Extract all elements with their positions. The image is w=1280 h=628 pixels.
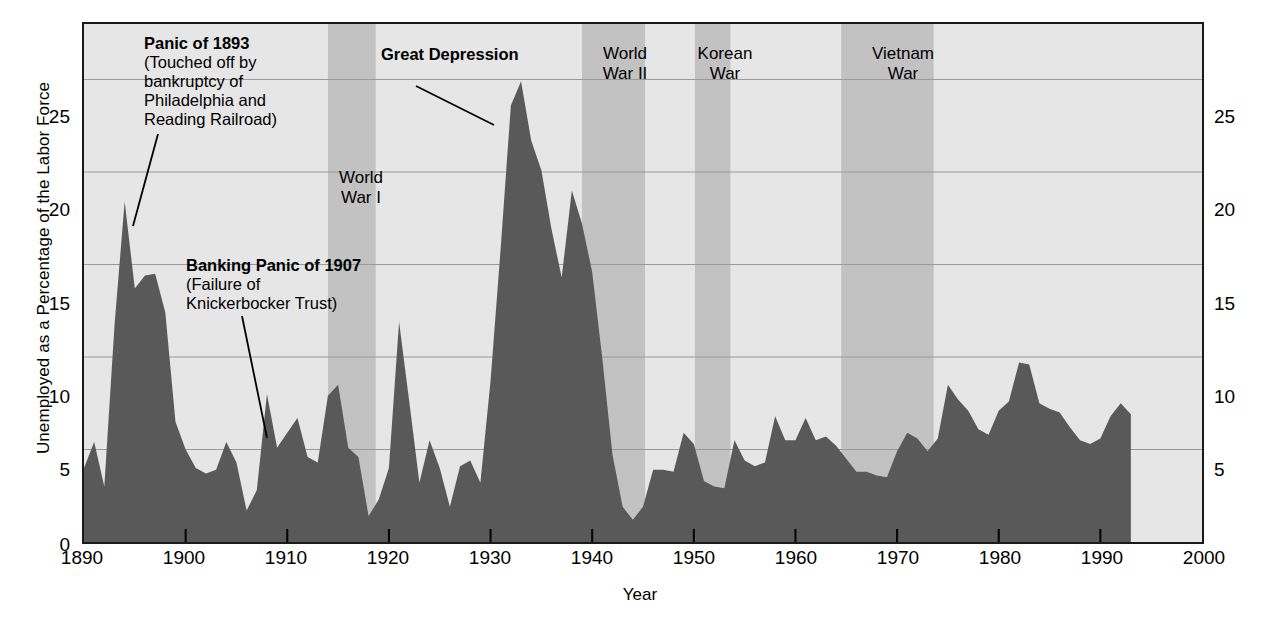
band-label-line1: World — [316, 168, 406, 188]
y-tick-left-10: 10 — [24, 387, 70, 406]
y-axis-title: Unemployed as a Percentage of the Labor … — [34, 28, 54, 508]
annotation-line-4: Reading Railroad) — [144, 110, 354, 129]
x-tick-1900: 1900 — [144, 548, 224, 567]
x-axis-title: Year — [0, 585, 1280, 605]
y-tick-left-20: 20 — [24, 200, 70, 219]
x-tick-1890: 1890 — [42, 548, 122, 567]
annotation-title: Great Depression — [381, 44, 531, 65]
x-tick-1980: 1980 — [960, 548, 1040, 567]
band-label-line2: War I — [316, 188, 406, 208]
y-tick-right-10: 10 — [1214, 387, 1260, 406]
y-tick-right-25: 25 — [1214, 107, 1260, 126]
chart-figure: Unemployed as a Percentage of the Labor … — [0, 0, 1280, 628]
x-tick-1950: 1950 — [654, 548, 734, 567]
y-tick-left-25: 25 — [24, 107, 70, 126]
annotation-line-1: (Failure of — [186, 275, 436, 294]
annotation-great-depression: Great Depression — [381, 44, 531, 65]
x-tick-1990: 1990 — [1062, 548, 1142, 567]
annotation-line-3: Philadelphia and — [144, 91, 354, 110]
x-tick-1970: 1970 — [858, 548, 938, 567]
band-label-world-war-i: World War I — [316, 168, 406, 208]
annotation-banking-panic-1907: Banking Panic of 1907 (Failure of Knicke… — [186, 256, 436, 313]
band-label-line2: War — [678, 64, 772, 84]
annotation-line-2: Knickerbocker Trust) — [186, 294, 436, 313]
band-label-vietnam-war: Vietnam War — [854, 44, 952, 84]
annotation-title: Panic of 1893 — [144, 34, 354, 53]
band-label-korean-war: Korean War — [678, 44, 772, 84]
x-tick-1930: 1930 — [450, 548, 530, 567]
x-tick-2000: 2000 — [1164, 548, 1244, 567]
y-tick-left-15: 15 — [24, 294, 70, 313]
y-tick-right-15: 15 — [1214, 294, 1260, 313]
band-label-line1: Vietnam — [854, 44, 952, 64]
y-tick-left-5: 5 — [24, 460, 70, 479]
y-tick-right-5: 5 — [1214, 460, 1260, 479]
x-tick-1920: 1920 — [348, 548, 428, 567]
x-tick-1940: 1940 — [552, 548, 632, 567]
annotation-line-1: (Touched off by — [144, 53, 354, 72]
annotation-line-2: bankruptcy of — [144, 72, 354, 91]
annotation-title: Banking Panic of 1907 — [186, 256, 436, 275]
band-label-line1: Korean — [678, 44, 772, 64]
band-label-line2: War — [854, 64, 952, 84]
y-tick-right-20: 20 — [1214, 200, 1260, 219]
x-tick-1910: 1910 — [246, 548, 326, 567]
band-label-line2: War II — [578, 64, 672, 84]
band-korean-war — [695, 24, 731, 542]
annotation-panic-1893: Panic of 1893 (Touched off by bankruptcy… — [144, 34, 354, 129]
band-label-line1: World — [578, 44, 672, 64]
band-label-world-war-ii: World War II — [578, 44, 672, 84]
x-tick-1960: 1960 — [756, 548, 836, 567]
